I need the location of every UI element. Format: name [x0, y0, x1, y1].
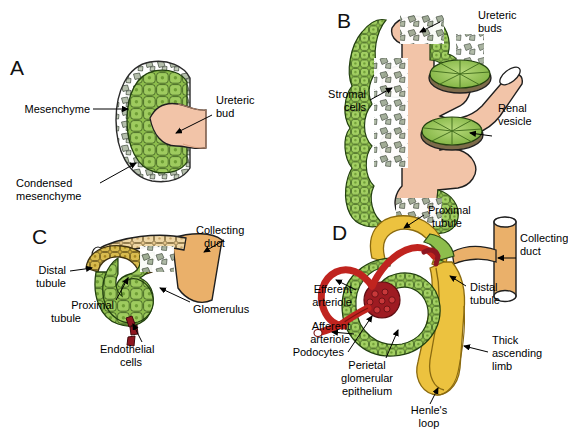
label-b-renal-vesicle-line2: vesicle: [498, 115, 532, 128]
label-c-distal-line2: tubule: [0, 277, 66, 290]
label-c-collecting-duct-line1: Collecting: [196, 224, 244, 237]
label-c-distal-line1: Distal: [0, 264, 66, 277]
label-b-ureteric-buds-line1: Ureteric: [478, 9, 517, 22]
label-b-renal-vesicle-line1: Renal: [498, 102, 527, 115]
panel-b-artwork: [345, 14, 523, 233]
label-d-efferent-line1: Efferent: [272, 283, 352, 296]
label-d-thick-line2: ascending: [492, 347, 542, 360]
label-d-collecting-line2: duct: [520, 245, 541, 258]
label-b-stromal-line2: cells: [284, 101, 366, 114]
label-d-perietal-line3: epithelium: [324, 385, 410, 398]
label-c-endothelial-line1: Endothelial: [100, 343, 154, 356]
panel-a-artwork: [116, 61, 206, 181]
label-d-henle-line1: Henle's: [396, 404, 462, 417]
label-b-stromal-line1: Stromal: [284, 88, 366, 101]
label-d-distal-line1: Distal: [470, 281, 498, 294]
label-c-collecting-duct-line2: duct: [204, 237, 225, 250]
label-c-glomerulus: Glomerulus: [193, 303, 249, 316]
label-d-afferent-line2: arteriole: [272, 333, 350, 346]
label-d-collecting-line1: Collecting: [520, 232, 568, 245]
label-d-proximal-line1: Proximal: [428, 204, 471, 217]
label-d-thick-line1: Thick: [492, 334, 518, 347]
label-c-proximal-line2: tubule: [30, 312, 102, 325]
label-d-proximal-line2: tubule: [432, 217, 462, 230]
label-d-henle-line2: loop: [396, 417, 462, 430]
panel-letter-c: C: [32, 226, 47, 247]
label-d-thick-line3: limb: [492, 360, 512, 373]
label-a-mesenchyme: Mesenchyme: [0, 103, 90, 116]
panel-letter-b: B: [337, 10, 351, 31]
label-d-perietal-line2: glomerular: [324, 372, 410, 385]
label-c-proximal-line1: Proximal: [18, 299, 114, 312]
label-b-ureteric-buds-line2: buds: [478, 22, 502, 35]
label-a-condensed-line2: mesenchyme: [16, 190, 81, 203]
label-a-ureteric-bud-line2: bud: [216, 107, 234, 120]
panel-c-artwork: [86, 234, 222, 346]
panel-letter-d: D: [332, 222, 347, 243]
label-d-afferent-line1: Afferent: [272, 320, 350, 333]
label-d-efferent-line2: arteriole: [272, 296, 352, 309]
panel-letter-a: A: [10, 57, 24, 78]
label-a-ureteric-bud-line1: Ureteric: [216, 94, 255, 107]
label-c-endothelial-line2: cells: [100, 356, 162, 369]
label-a-condensed-line1: Condensed: [16, 177, 72, 190]
label-d-distal-line2: tubule: [470, 294, 500, 307]
label-d-perietal-line1: Perietal: [324, 359, 410, 372]
label-d-podocytes: Podocytes: [266, 346, 344, 359]
